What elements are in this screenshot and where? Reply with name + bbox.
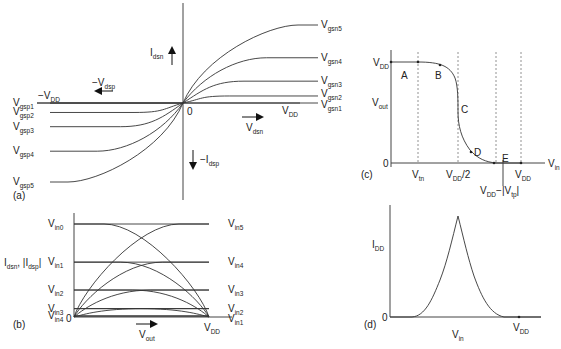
b-left-labels: Vin0Vin1Vin2Vin3Vin4 [48,218,64,323]
a-pmos-label: Vgsp5 [13,176,34,190]
a-neg-vdd-label: −VDD [38,90,60,103]
b-vdd-label: VDD [204,322,220,335]
c-vdd-level-label: VDD [373,57,389,70]
d-idd-curve [390,216,541,317]
a-origin-label: 0 [187,106,193,117]
c-point [520,162,523,165]
a-pmos-curve [50,103,183,182]
d-vin-label: Vin [452,329,464,342]
c-vin-label: Vin [548,158,560,171]
panel-c: VDD Vout 0 Vin A B C D E Vtn VDD/2 VDD−|… [361,50,560,199]
b-y-axis-label: Idsn, |Idsp| [4,257,41,271]
a-neg-idsp-label: −Idsp [200,154,219,168]
a-vdd-label: VDD [282,105,298,118]
a-pmos-curve [50,103,183,112]
c-tick-vtn: Vtn [412,169,424,182]
a-nmos-labels: Vgsn5Vgsn4Vgsn3Vgsn2Vgsn1 [321,19,342,113]
b-right-label: Vin4 [228,256,244,269]
panel-b: Vin0Vin1Vin2Vin3Vin4 Vin5Vin4Vin3Vin2Vin… [4,213,244,342]
c-region-c: C [461,104,468,115]
panel-a: Idsn −Vdsp −VDD 0 Vdsn −Idsp VDD Vgsn5Vg… [13,3,342,201]
c-panel-tag: (c) [361,169,373,180]
a-neg-vdsp-label: −Vdsp [92,77,115,91]
cmos-inverter-figure: Idsn −Vdsp −VDD 0 Vdsn −Idsp VDD Vgsn5Vg… [0,0,561,349]
c-region-d: D [474,147,481,158]
b-right-labels: Vin5Vin4Vin3Vin2Vin1 [228,218,244,326]
d-vdd-point [518,316,521,319]
b-vout-label: Vout [139,329,155,342]
c-tick-vdd: VDD [515,169,531,182]
c-vtc-curve [391,62,521,163]
d-vdd-label: VDD [513,322,529,335]
a-nmos-label: Vgsn1 [321,99,342,113]
a-pmos-label: Vgsp3 [13,121,34,135]
b-left-label: Vin0 [48,218,64,231]
c-region-b: B [435,70,442,81]
a-nmos-label: Vgsn4 [321,52,342,66]
b-right-label: Vin3 [228,284,244,297]
c-point [417,61,420,64]
a-vdsn-label: Vdsn [246,122,264,135]
d-origin-label: 0 [382,312,388,323]
b-left-label: Vin1 [48,256,64,269]
c-point [439,64,442,67]
d-panel-tag: (d) [364,319,376,330]
b-curves [74,224,209,317]
a-pmos-curve [50,103,183,127]
a-nmos-curve [183,25,318,103]
a-nmos-label: Vgsn5 [321,19,342,33]
b-left-label: Vin2 [48,284,64,297]
a-pmos-labels: Vgsp1Vgsp2Vgsp3Vgsp4Vgsp5 [13,97,34,190]
a-panel-tag: (a) [13,190,25,201]
c-region-a: A [401,70,408,81]
c-point [493,162,496,165]
d-idd-label: IDD [372,239,384,252]
c-origin-label: 0 [383,158,389,169]
a-nmos-curve [183,81,318,103]
c-tick-vdd-minus-vtp: VDD−|Vtp| [480,185,519,199]
b-panel-tag: (b) [13,319,25,330]
c-point [390,61,393,64]
c-region-e: E [502,153,509,164]
b-right-label: Vin5 [228,218,244,231]
c-tick-half-vdd: VDD/2 [446,169,471,182]
panel-d: IDD 0 Vin VDD (d) [364,205,541,342]
b-origin-label: 0 [66,313,72,324]
a-idsn-label: Idsn [150,47,164,60]
c-point [470,151,473,154]
a-nmos-curve [183,96,318,103]
c-vout-label: Vout [372,97,388,110]
a-pmos-label: Vgsp4 [13,145,34,159]
